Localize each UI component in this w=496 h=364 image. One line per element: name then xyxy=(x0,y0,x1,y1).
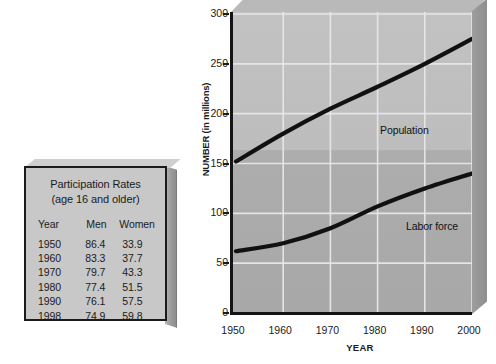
cell-year: 1960 xyxy=(32,251,85,265)
y-axis-ticks: 050100150200250300 xyxy=(186,4,228,360)
y-tick-mark xyxy=(223,63,229,65)
cell-year: 1990 xyxy=(32,295,85,309)
cell-women: 37.7 xyxy=(118,251,159,265)
x-axis-ticks: 195019601970198019902000 xyxy=(186,324,492,340)
y-tick-mark xyxy=(223,163,229,165)
table-row: 1990 76.1 57.5 xyxy=(32,295,159,309)
card-front-face: Participation Rates (age 16 and older) Y… xyxy=(24,166,167,321)
cell-year: 1980 xyxy=(32,280,85,294)
table-row: 1960 83.3 37.7 xyxy=(32,251,159,265)
x-tick-label: 1960 xyxy=(257,324,303,336)
cell-year: 1950 xyxy=(32,237,85,251)
column-header-year: Year xyxy=(32,217,85,237)
cell-women: 43.3 xyxy=(118,266,159,280)
plot-svg xyxy=(233,12,472,315)
cell-year: 1998 xyxy=(32,309,85,323)
x-tick-label: 1970 xyxy=(304,324,350,336)
y-tick-mark xyxy=(223,262,229,264)
x-tick-label: 1990 xyxy=(399,324,445,336)
card-title-line2: (age 16 and older) xyxy=(32,192,159,207)
column-header-women: Women xyxy=(118,217,159,237)
column-header-men: Men xyxy=(85,217,118,237)
cell-men: 74.9 xyxy=(85,309,118,323)
cell-women: 51.5 xyxy=(118,280,159,294)
x-axis-title: YEAR xyxy=(230,342,490,353)
population-labor-force-chart: NUMBER (in millions) 050100150200250300 … xyxy=(186,4,492,360)
series-label-labor-force: Labor force xyxy=(406,220,458,232)
cell-men: 83.3 xyxy=(85,251,118,265)
card-title-line1: Participation Rates xyxy=(32,177,159,192)
cell-men: 79.7 xyxy=(85,266,118,280)
cell-men: 76.1 xyxy=(85,295,118,309)
table-header-row: Year Men Women xyxy=(32,217,159,237)
cell-men: 77.4 xyxy=(85,280,118,294)
x-tick-label: 1980 xyxy=(352,324,398,336)
y-tick-mark xyxy=(223,312,229,314)
x-tick-label: 2000 xyxy=(446,324,492,336)
cell-women: 33.9 xyxy=(118,237,159,251)
cell-women: 57.5 xyxy=(118,295,159,309)
plot-3d-slab: Population Labor force xyxy=(230,12,488,322)
table-row: 1998 74.9 59.8 xyxy=(32,309,159,323)
cell-year: 1970 xyxy=(32,266,85,280)
participation-rates-table: Year Men Women 1950 86.4 33.9 1960 83.3 … xyxy=(32,217,159,323)
table-row: 1970 79.7 43.3 xyxy=(32,266,159,280)
plot-area xyxy=(230,12,472,315)
y-tick-mark xyxy=(223,212,229,214)
cell-men: 86.4 xyxy=(85,237,118,251)
cell-women: 59.8 xyxy=(118,309,159,323)
participation-rates-card: Participation Rates (age 16 and older) Y… xyxy=(24,166,176,324)
series-label-population: Population xyxy=(380,124,429,136)
table-row: 1980 77.4 51.5 xyxy=(32,280,159,294)
y-tick-mark xyxy=(223,13,229,15)
table-row: 1950 86.4 33.9 xyxy=(32,237,159,251)
x-tick-label: 1950 xyxy=(210,324,256,336)
chart-3d-right-face xyxy=(471,0,487,315)
card-title: Participation Rates (age 16 and older) xyxy=(32,177,159,206)
y-tick-mark xyxy=(223,113,229,115)
